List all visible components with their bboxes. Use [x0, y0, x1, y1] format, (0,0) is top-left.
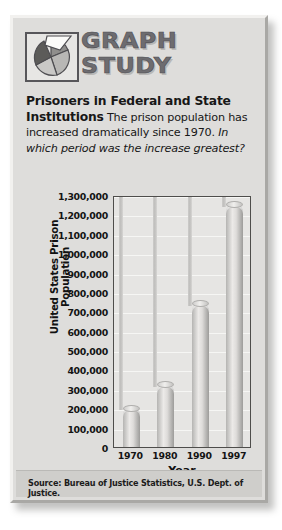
bar: [157, 385, 174, 447]
x-axis-tick-label: 1980: [152, 450, 177, 461]
source-bar: Source: Bureau of Justice Statistics, U.…: [16, 470, 262, 497]
x-axis-tick-label: 1997: [221, 450, 246, 461]
y-axis-tick-label: 100,000: [42, 423, 108, 434]
bar-shadow-line: [188, 197, 192, 306]
y-axis-tick-label: 700,000: [42, 307, 108, 318]
y-axis-tick-label: 200,000: [42, 404, 108, 415]
x-axis-tick-label: 1970: [118, 450, 143, 461]
y-axis-tick-label: 1,300,000: [42, 191, 108, 202]
logo-word-study: STUDY: [81, 53, 232, 78]
plot-area: [113, 196, 251, 448]
bar: [192, 304, 209, 447]
pie-chart-icon: [25, 32, 79, 82]
y-axis-ticks: 0100,000200,000300,000400,000500,000600,…: [42, 186, 108, 442]
source-text: Source: Bureau of Justice Statistics, U.…: [28, 478, 262, 498]
bar-chart: United States Prison Population 0100,000…: [26, 186, 258, 486]
y-axis-tick-label: 600,000: [42, 326, 108, 337]
y-axis-tick-label: 400,000: [42, 365, 108, 376]
y-axis-tick-label: 1,100,000: [42, 229, 108, 240]
y-axis-tick-label: 900,000: [42, 268, 108, 279]
caption: Prisoners in Federal and State Instituti…: [26, 94, 254, 156]
logo-word-graph: GRAPH: [81, 28, 232, 53]
y-axis-tick-label: 1,000,000: [42, 249, 108, 260]
y-axis-tick-label: 300,000: [42, 384, 108, 395]
x-axis-ticks: 1970198019901997: [113, 450, 251, 464]
y-axis-tick-label: 800,000: [42, 287, 108, 298]
gridline: [114, 197, 250, 198]
y-axis-tick-label: 0: [42, 443, 108, 454]
x-axis-tick-label: 1990: [187, 450, 212, 461]
bar: [226, 205, 243, 447]
graph-study-card: GRAPH STUDY Prisoners in Federal and Sta…: [10, 15, 268, 503]
y-axis-tick-label: 500,000: [42, 346, 108, 357]
bar-shadow-line: [153, 197, 157, 387]
graph-study-logo: GRAPH STUDY: [25, 28, 225, 86]
y-axis-tick-label: 1,200,000: [42, 210, 108, 221]
bar-shadow-line: [119, 197, 123, 410]
bar: [123, 408, 140, 447]
pie-chart-icon-svg: [27, 34, 77, 80]
logo-wordmark: GRAPH STUDY: [81, 28, 221, 86]
